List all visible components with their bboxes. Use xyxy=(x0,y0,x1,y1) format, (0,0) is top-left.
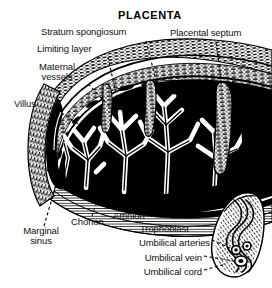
label-chorion: Chorion xyxy=(71,217,104,228)
label-stratum-spongiosum: Stratum spongiosum xyxy=(41,27,126,38)
page-title: PLACENTA xyxy=(118,9,182,21)
placenta-diagram-figure: PLACENTA Stratum spongiosum Limiting lay… xyxy=(0,0,272,288)
label-placental-septum: Placental septum xyxy=(170,28,241,39)
label-limiting-layer: Limiting layer xyxy=(37,44,92,55)
label-amnion: Amnion xyxy=(113,211,145,222)
label-umbilical-cord: Umbilical cord xyxy=(110,267,202,278)
label-maternal-vessels-line2: vessels xyxy=(28,72,86,82)
label-umbilical-arteries: Umbilical arteries xyxy=(110,238,210,249)
label-umbilical-vein: Umbilical vein xyxy=(110,253,202,264)
label-villus: Villus xyxy=(14,99,36,110)
label-marginal-sinus-line2: sinus xyxy=(10,236,72,246)
label-trophoblast: Trophoblast xyxy=(140,224,189,235)
